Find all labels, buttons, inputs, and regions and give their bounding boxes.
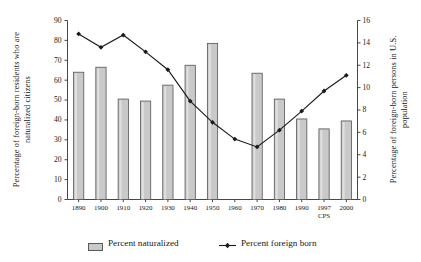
legend-label-naturalized: Percent naturalized (108, 238, 179, 248)
bar-1930 (163, 85, 173, 199)
y-axis-right-tick-16: 16 (363, 16, 383, 25)
y-axis-right-tick-12: 12 (363, 61, 383, 70)
y-axis-left-tick-60: 60 (38, 76, 62, 85)
y-axis-left-tick-30: 30 (38, 135, 62, 144)
y-axis-left-tick-20: 20 (38, 155, 62, 164)
y-axis-left-tick-40: 40 (38, 115, 62, 124)
y-axis-left-tick-90: 90 (38, 16, 62, 25)
y-axis-left-tick-80: 80 (38, 36, 62, 45)
chart-figure: Percentage of foreign-born residents who… (0, 0, 421, 262)
bar-1940 (185, 65, 195, 199)
bar-1997 (319, 129, 329, 200)
y-axis-right-tick-6: 6 (363, 128, 383, 137)
y-axis-left-tick-70: 70 (38, 56, 62, 65)
cps-annotation: CPS (310, 212, 338, 219)
legend-swatch-bar-icon (88, 243, 103, 251)
bar-1970 (252, 73, 262, 199)
bar-1920 (140, 101, 150, 199)
y-axis-right-tick-14: 14 (363, 38, 383, 47)
bar-1910 (118, 99, 128, 199)
bar-2000 (341, 121, 351, 200)
y-axis-left-tick-50: 50 (38, 95, 62, 104)
legend-label-foreign-born: Percent foreign born (241, 238, 317, 248)
y-axis-right-tick-0: 0 (363, 195, 383, 204)
bar-1980 (274, 99, 284, 199)
line-marker-1890 (76, 32, 81, 37)
plot-area (0, 0, 421, 262)
y-axis-left-tick-0: 0 (38, 195, 62, 204)
y-axis-left-tick-10: 10 (38, 175, 62, 184)
bar-1900 (96, 67, 106, 199)
bar-1890 (74, 72, 84, 199)
legend-swatch-line-icon (219, 241, 236, 250)
y-axis-right-tick-10: 10 (363, 83, 383, 92)
bar-1990 (297, 119, 307, 200)
x-axis-tick-2000: 2000 (332, 204, 360, 211)
y-axis-right-tick-4: 4 (363, 150, 383, 159)
y-axis-right-tick-8: 8 (363, 105, 383, 114)
y-axis-right-tick-2: 2 (363, 173, 383, 182)
